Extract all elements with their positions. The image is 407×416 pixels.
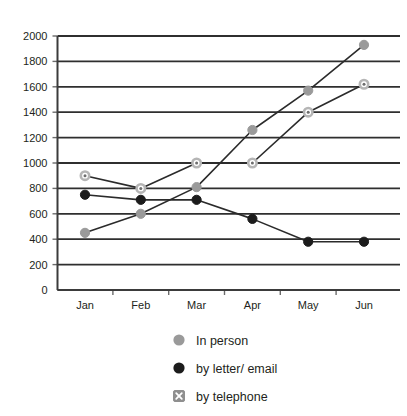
y-axis-tick-labels: 0200400600800100012001400160018002000 <box>23 30 47 296</box>
y-tick-label-1200: 1200 <box>23 132 47 144</box>
datapoint-apr-marker-core <box>251 162 254 165</box>
datapoint-mar-marker-core <box>195 162 198 165</box>
datapoint-apr-marker <box>248 125 257 134</box>
legend-item-by-letter-email[interactable]: by letter/ email <box>173 362 277 376</box>
data-series <box>80 40 368 246</box>
x-tick-label-May: May <box>298 299 319 311</box>
datapoint-jun-marker <box>359 40 368 49</box>
series-by-telephone <box>81 80 368 193</box>
legend-item-by-telephone[interactable]: by telephone <box>174 390 268 404</box>
y-tick-label-600: 600 <box>29 208 47 220</box>
datapoint-may-marker <box>304 237 313 246</box>
x-tick-label-Apr: Apr <box>244 299 261 311</box>
x-tick-label-Jun: Jun <box>355 299 373 311</box>
chart-canvas: 0200400600800100012001400160018002000 Ja… <box>0 0 407 416</box>
chart-legend: In personby letter/ emailby telephone <box>173 334 277 404</box>
datapoint-feb-marker <box>136 209 145 218</box>
datapoint-feb-marker <box>136 195 145 204</box>
y-tick-label-1400: 1400 <box>23 106 47 118</box>
series-line <box>85 45 364 233</box>
y-tick-label-2000: 2000 <box>23 30 47 42</box>
datapoint-mar-marker <box>192 195 201 204</box>
series-line <box>85 84 364 188</box>
legend-swatch-icon <box>173 334 184 345</box>
legend-item-label: by telephone <box>196 390 268 404</box>
datapoint-jan-marker <box>80 228 89 237</box>
datapoint-may-marker-core <box>307 111 310 114</box>
x-axis-tick-labels: JanFebMarAprMayJun <box>76 299 373 311</box>
datapoint-may-marker <box>304 86 313 95</box>
legend-item-label: In person <box>196 334 248 348</box>
datapoint-mar-marker <box>192 183 201 192</box>
line-chart-figure: 0200400600800100012001400160018002000 Ja… <box>0 0 407 416</box>
legend-swatch-icon <box>173 362 184 373</box>
y-tick-label-0: 0 <box>41 284 47 296</box>
y-tick-label-200: 200 <box>29 259 47 271</box>
series-by-letter-email <box>80 190 368 246</box>
datapoint-jan-marker <box>80 190 89 199</box>
x-tick-label-Feb: Feb <box>131 299 150 311</box>
x-tick-label-Mar: Mar <box>187 299 206 311</box>
x-tick-label-Jan: Jan <box>76 299 94 311</box>
datapoint-feb-marker-core <box>139 187 142 190</box>
datapoint-jan-marker-core <box>84 174 87 177</box>
y-tick-label-1800: 1800 <box>23 55 47 67</box>
y-tick-label-1000: 1000 <box>23 157 47 169</box>
legend-item-label: by letter/ email <box>196 362 277 376</box>
y-tick-label-400: 400 <box>29 233 47 245</box>
series-in-person <box>80 40 368 237</box>
datapoint-jun-marker-core <box>363 83 366 86</box>
datapoint-jun-marker <box>359 237 368 246</box>
y-tick-label-800: 800 <box>29 182 47 194</box>
legend-item-in-person[interactable]: In person <box>173 334 248 348</box>
datapoint-apr-marker <box>248 214 257 223</box>
y-tick-label-1600: 1600 <box>23 81 47 93</box>
